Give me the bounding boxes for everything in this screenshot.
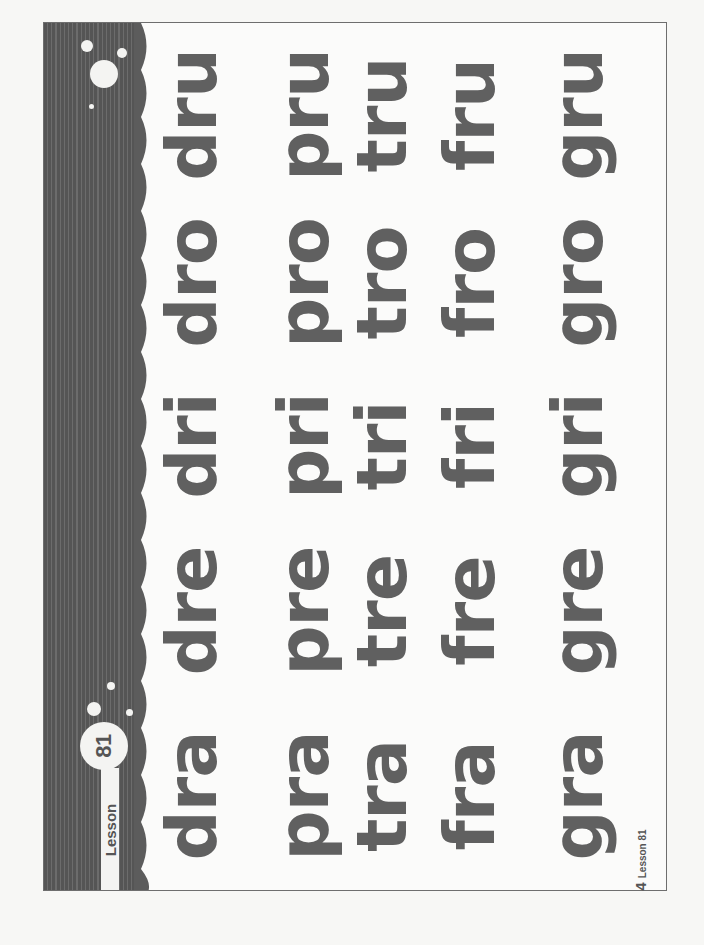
blend-word: pru bbox=[269, 49, 339, 180]
blend-word: tru bbox=[347, 58, 417, 173]
blend-word: gra bbox=[543, 732, 613, 861]
blend-word: pro bbox=[269, 218, 339, 348]
bubble-decoration bbox=[87, 702, 101, 716]
blend-word: fri bbox=[435, 403, 505, 489]
blend-word: dre bbox=[157, 546, 227, 675]
blend-word: fro bbox=[435, 228, 505, 338]
page-footer: 4Lesson 81 bbox=[632, 829, 649, 890]
blend-word: gri bbox=[543, 393, 613, 499]
blend-word: tro bbox=[347, 226, 417, 339]
blend-word: tre bbox=[347, 555, 417, 667]
blend-word: dri bbox=[157, 393, 227, 499]
bubble-decoration bbox=[126, 709, 133, 716]
blend-word: gro bbox=[543, 218, 613, 348]
blend-word: gre bbox=[543, 546, 613, 675]
bubble-decoration bbox=[81, 40, 93, 52]
blend-word: dra bbox=[157, 732, 227, 861]
blend-word: fra bbox=[435, 741, 505, 850]
lesson-number: 81 bbox=[91, 734, 117, 757]
blend-word: gru bbox=[543, 49, 613, 180]
footer-lesson-text: Lesson 81 bbox=[637, 829, 648, 878]
blend-word: pri bbox=[269, 393, 339, 499]
blend-word: tra bbox=[347, 740, 417, 852]
page-number: 4 bbox=[632, 882, 649, 890]
bubble-decoration bbox=[89, 104, 94, 109]
blend-word: fre bbox=[435, 556, 505, 665]
blend-word: pre bbox=[269, 546, 339, 675]
blend-word: tri bbox=[347, 402, 417, 491]
lesson-label: Lesson bbox=[102, 804, 119, 857]
blend-word: dro bbox=[157, 218, 227, 348]
bubble-decoration bbox=[117, 48, 127, 58]
blend-word: pra bbox=[269, 732, 339, 861]
bubble-decoration bbox=[90, 60, 118, 88]
blend-word: fru bbox=[435, 59, 505, 171]
blend-word: dru bbox=[157, 49, 227, 180]
bubble-decoration bbox=[107, 682, 115, 690]
